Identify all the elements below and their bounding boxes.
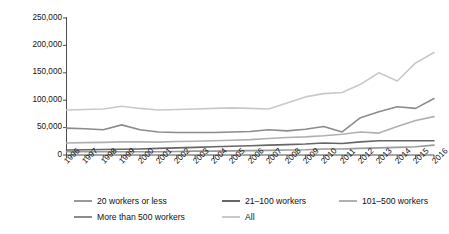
legend-row: 20 workers or less21–100 workers101–500 …: [74, 194, 434, 208]
legend-label: 101–500 workers: [362, 197, 428, 206]
series-line: [67, 53, 435, 111]
series-line: [67, 117, 435, 143]
legend-label: 21–100 workers: [245, 197, 306, 206]
chart-legend: 20 workers or less21–100 workers101–500 …: [74, 194, 434, 228]
legend-label: 20 workers or less: [97, 197, 167, 206]
legend-row: More than 500 workersAll: [74, 210, 434, 224]
legend-color-swatch: [339, 200, 357, 202]
legend-label: More than 500 workers: [97, 213, 185, 222]
legend-item[interactable]: More than 500 workers: [74, 210, 185, 224]
legend-item[interactable]: 20 workers or less: [74, 194, 167, 208]
legend-item[interactable]: 101–500 workers: [339, 194, 428, 208]
legend-color-swatch: [222, 200, 240, 202]
legend-item[interactable]: 21–100 workers: [222, 194, 306, 208]
legend-color-swatch: [222, 216, 240, 218]
legend-color-swatch: [74, 216, 92, 218]
legend-item[interactable]: All: [222, 210, 255, 224]
series-line: [67, 99, 435, 133]
legend-color-swatch: [74, 200, 92, 202]
legend-label: All: [245, 213, 255, 222]
axis-lines: [63, 17, 434, 159]
